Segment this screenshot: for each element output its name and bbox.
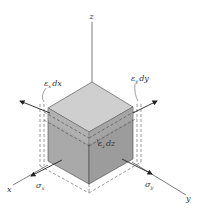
- x-axis-label: x: [7, 185, 12, 194]
- sigma-x-arrow: [31, 160, 62, 176]
- sigma-y-back-arrow: [133, 101, 157, 113]
- y-axis-label: y: [185, 194, 191, 203]
- x-axis: [13, 165, 48, 185]
- strain-y-leader: [135, 84, 138, 101]
- strain-x-leader: [42, 88, 46, 102]
- sigma-y-label: σy: [145, 180, 153, 191]
- strain-y-label: εydy: [131, 74, 149, 85]
- y-axis: [132, 162, 186, 195]
- strain-z-label: εzdz: [98, 139, 116, 149]
- sigma-x-back-arrow: [20, 101, 50, 113]
- strain-x-label: εxdx: [44, 79, 62, 89]
- sigma-x-label: σx: [36, 181, 44, 191]
- z-axis-label: z: [89, 12, 95, 21]
- strain-cube-diagram: z x y εxdx εydy: [0, 0, 203, 211]
